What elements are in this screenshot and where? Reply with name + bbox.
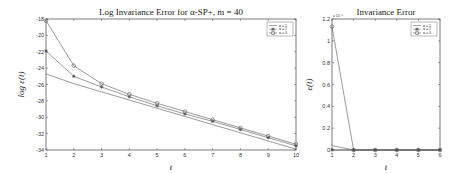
y-tick-label: -18 [36,16,44,22]
y-tick-label: 0.6 [322,82,330,88]
y-tick-label: 1.2 [322,16,330,22]
y-axis-label: ε(t) [304,78,314,90]
y-tick-label: -34 [36,147,44,153]
legend-entry: α = 3 [279,31,287,35]
x-tick-label: 6 [438,152,441,158]
x-tick-label: 4 [395,152,398,158]
plot-area [332,19,440,150]
star-marker [72,75,76,79]
x-tick-label: 5 [417,152,420,158]
y-tick-label: 0.2 [322,125,330,131]
figure: 12345678910-18-20-22-24-26-28-30-32-34Lo… [0,0,463,174]
y-tick-label: 0.8 [322,60,330,66]
star-marker [271,27,275,31]
x-tick-label: 1 [330,152,333,158]
x-tick-label: 3 [100,152,103,158]
legend: α = 1α = 2α = 3 [267,22,293,36]
x-tick-label: 6 [183,152,186,158]
x-tick-label: 7 [211,152,214,158]
y-axis-label: log ε(t) [16,72,26,98]
y-tick-label: -26 [36,82,44,88]
chart-title: Invariance Error [356,7,415,17]
chart-panel-0: 12345678910-18-20-22-24-26-28-30-32-34Lo… [16,7,299,172]
x-tick-label: 10 [293,152,299,158]
x-tick-label: 9 [267,152,270,158]
chart-title: Log Invariance Error for α-SP+, m = 40 [99,7,243,17]
legend: α = 1α = 2α = 3 [411,22,437,36]
y-tick-label: -20 [36,32,44,38]
x-axis-label: t [385,162,388,172]
legend-entry: α = 3 [423,31,431,35]
y-tick-label: -24 [36,65,44,71]
x-tick-label: 2 [352,152,355,158]
y-tick-label: -28 [36,98,44,104]
y-scale-label: x 10⁻⁸ [333,14,344,18]
plot-area [46,19,296,150]
y-tick-label: 0 [327,147,330,153]
x-tick-label: 1 [44,152,47,158]
y-tick-label: -32 [36,131,44,137]
x-tick-label: 4 [128,152,131,158]
star-marker [330,148,334,152]
x-axis-label: t [170,162,173,172]
y-tick-label: 0.4 [322,103,330,109]
star-marker [44,49,48,53]
y-tick-label: 1 [327,38,330,44]
x-tick-label: 8 [239,152,242,158]
y-tick-label: -30 [36,114,44,120]
chart-panel-1: 12345600.20.40.60.811.2Invariance Errort… [304,7,442,172]
x-tick-label: 5 [156,152,159,158]
y-tick-label: -22 [36,49,44,55]
x-tick-label: 2 [72,152,75,158]
star-marker [415,27,419,31]
x-tick-label: 3 [374,152,377,158]
